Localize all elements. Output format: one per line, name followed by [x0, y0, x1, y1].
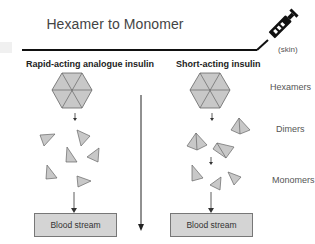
hexamer-right: [190, 73, 230, 108]
arrow-to-bloodstream-left: [71, 192, 77, 213]
syringe-icon: [257, 8, 299, 50]
monomers-right: [192, 165, 241, 190]
row-label-monomers: Monomers: [272, 175, 315, 185]
arrow-to-bloodstream-right: [208, 192, 214, 213]
row-label-dimers: Dimers: [276, 124, 305, 134]
arrow-down: [73, 113, 77, 121]
dimers-right: [187, 118, 250, 158]
arrow-down: [210, 113, 214, 121]
blood-stream-box-right: Blood stream: [170, 213, 253, 237]
arrow-down: [209, 157, 213, 165]
row-label-hexamers: Hexamers: [270, 82, 311, 92]
diagram-graphics: [0, 0, 315, 244]
monomers-left: [40, 130, 99, 187]
rapid-acting-heading: Rapid-acting analogue insulin: [26, 59, 154, 69]
blood-stream-box-left: Blood stream: [34, 213, 117, 237]
time-arrow: [138, 95, 144, 231]
short-acting-heading: Short-acting insulin: [176, 59, 261, 69]
hexamer-left: [52, 73, 92, 108]
